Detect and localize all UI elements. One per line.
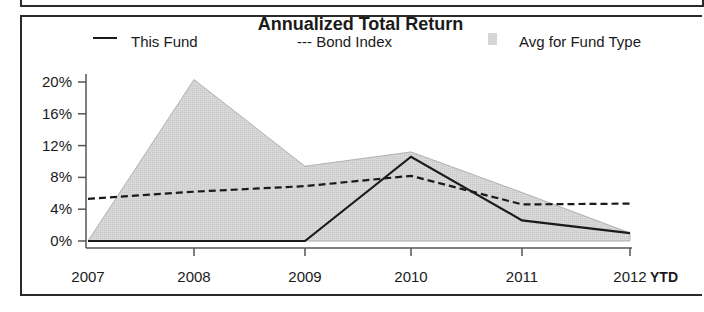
x-tick-label: 2012 [613,268,646,285]
x-tick-label: 2008 [177,268,210,285]
x-axis-labels: 200720082009201020112012YTD [71,268,678,285]
x-tick-label: 2007 [71,268,104,285]
y-axis-labels: 20%16%12%8%4%0% [42,73,72,249]
y-tick-label: 8% [50,168,72,185]
y-tick-label: 0% [50,232,72,249]
x-tick-label: 2011 [506,268,538,285]
y-tick-label: 4% [50,200,72,217]
y-tick-label: 20% [42,73,72,90]
x-tick-label: 2010 [394,268,427,285]
ytd-label: YTD [650,269,678,285]
avg-fund-type-area [88,80,630,241]
avg-area-shape [88,80,630,241]
x-tick-label: 2009 [288,268,321,285]
y-tick-label: 12% [42,137,72,154]
y-tick-label: 16% [42,105,72,122]
